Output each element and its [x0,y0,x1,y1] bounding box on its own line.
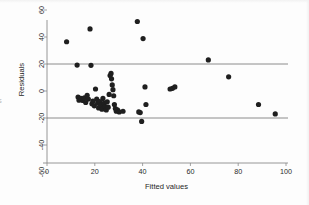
x-tick-label: 60 [186,167,194,176]
y-tick-label: -40 [37,140,46,150]
data-point [87,26,92,31]
data-point [135,19,140,24]
data-point [105,99,110,104]
data-point [226,74,231,79]
data-point [140,36,145,41]
data-point [88,63,93,68]
y-axis-title: Residuals [17,63,26,97]
x-axis-title: Fitted values [145,182,188,191]
data-point [172,84,177,89]
x-tick-label: 20 [91,167,99,176]
y-axis-ticks: 6040200-20-40-60 [37,6,48,177]
data-point [93,86,98,91]
data-point [86,97,91,102]
data-point [256,102,261,107]
x-tick-label: 40 [139,167,147,176]
x-tick-label: 0 [45,167,49,176]
data-point [143,102,148,107]
y-tick-label: -20 [37,113,46,123]
plot-axes: 6040200-20-40-60 020406080100 [37,6,293,177]
x-tick-label: 100 [280,167,292,176]
data-point [138,110,143,115]
data-point [106,105,111,110]
data-point [120,109,125,114]
y-tick-label: 0 [37,89,46,93]
data-point [100,96,105,101]
data-point [110,82,115,87]
x-tick-label: 80 [234,167,242,176]
data-point [107,92,112,97]
data-point [110,87,115,92]
data-point [75,62,80,67]
y-tick-label: 60 [37,6,46,14]
data-point-group [64,19,278,124]
data-point [108,71,113,76]
data-point [111,93,116,98]
scatter-plot: 6040200-20-40-60 020406080100 Fitted val… [0,0,309,205]
y-tick-label: 20 [37,60,46,68]
data-point [273,111,278,116]
data-point [142,84,147,89]
residual-plot-figure: s 6040200-20-40-60 020406080100 Fitted v… [0,0,309,205]
data-point [64,39,69,44]
data-point [206,57,211,62]
y-tick-label: 40 [37,33,46,41]
x-axis-ticks: 020406080100 [45,163,292,176]
reference-lines [47,64,288,118]
data-point [139,119,144,124]
data-point [109,76,114,81]
